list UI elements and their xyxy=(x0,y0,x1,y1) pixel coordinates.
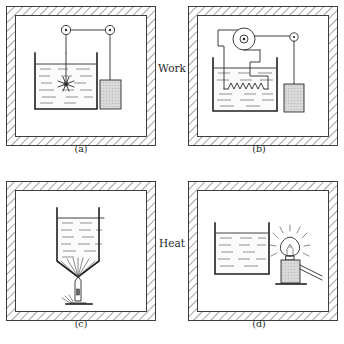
work-heat-figure: (a) xyxy=(0,0,344,344)
lamp-base-d xyxy=(281,260,300,283)
panel-caption-c: (c) xyxy=(75,318,88,329)
panel-caption-d: (d) xyxy=(252,318,266,329)
panel-caption-a: (a) xyxy=(74,143,87,154)
weight-b xyxy=(284,84,304,112)
process-label-work: Work xyxy=(158,62,186,74)
panel-caption-b: (b) xyxy=(252,143,266,154)
process-label-heat: Heat xyxy=(159,237,186,249)
figure-background xyxy=(0,0,344,344)
figure-canvas: (a) xyxy=(0,0,344,344)
weight-a xyxy=(100,80,121,109)
